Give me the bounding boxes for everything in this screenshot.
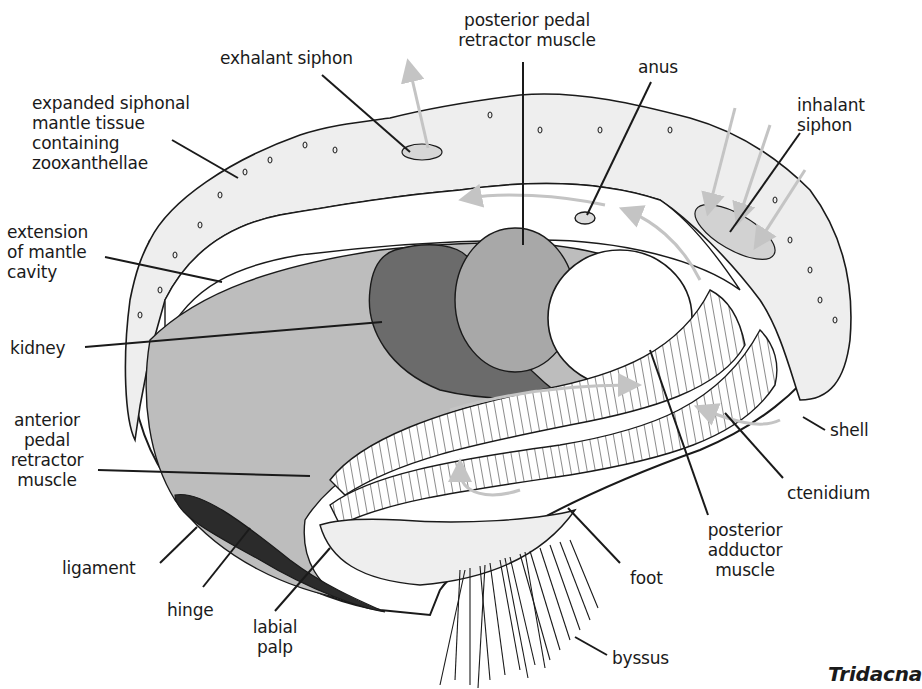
label-labial-palp: labial palp — [240, 617, 310, 657]
diagram-title: Tridacna — [828, 664, 922, 684]
label-ligament: ligament — [62, 558, 136, 578]
label-foot: foot — [630, 568, 663, 588]
label-kidney: kidney — [10, 338, 65, 358]
label-inhalant-siphon: inhalant siphon — [797, 95, 865, 135]
label-anus: anus — [638, 57, 678, 77]
label-anterior-pedal-retractor-muscle: anterior pedal retractor muscle — [2, 410, 92, 490]
label-posterior-pedal-retractor-muscle: posterior pedal retractor muscle — [432, 10, 622, 50]
label-ctenidium: ctenidium — [787, 483, 870, 503]
label-shell: shell — [830, 420, 869, 440]
label-extension-of-mantle-cavity: extension of mantle cavity — [7, 222, 88, 282]
label-posterior-adductor-muscle: posterior adductor muscle — [695, 520, 795, 580]
label-hinge: hinge — [167, 600, 214, 620]
label-expanded-siphonal-mantle: expanded siphonal mantle tissue containi… — [32, 93, 190, 173]
label-byssus: byssus — [612, 648, 669, 668]
label-exhalant-siphon: exhalant siphon — [220, 48, 353, 68]
